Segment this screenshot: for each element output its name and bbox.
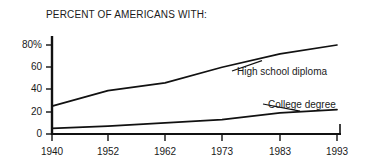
series-line-college-degree [52, 110, 337, 129]
series-line-high-school-diploma [52, 45, 337, 106]
plot-area [0, 0, 366, 168]
leader-line-college-degree [263, 104, 300, 111]
chart-figure: PERCENT OF AMERICANS WITH: 80% 60 40 20 … [0, 0, 366, 168]
x-tick-marks [52, 135, 337, 141]
